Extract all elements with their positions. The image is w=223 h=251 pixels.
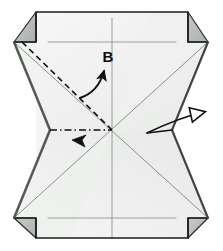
origami-diagram-canvas: B: [0, 0, 223, 251]
origami-diagram: B: [0, 0, 223, 251]
label-b: B: [103, 48, 114, 65]
corner-flap-bottom-right-icon: [188, 218, 208, 238]
corner-flap-top-right-icon: [188, 12, 208, 42]
corner-flap-bottom-left-icon: [14, 218, 36, 238]
labels-group: B: [103, 48, 114, 65]
corner-flap-top-left-icon: [14, 12, 36, 42]
paper-body-group: [14, 12, 208, 238]
